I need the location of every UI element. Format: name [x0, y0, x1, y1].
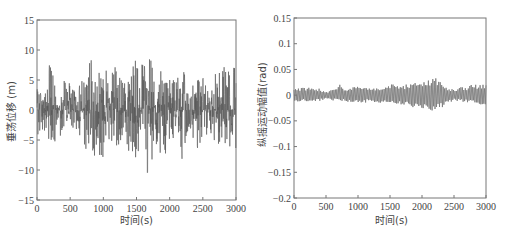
- x-tick-label: 1000: [93, 203, 113, 214]
- y-tick-label: 0.05: [274, 64, 292, 75]
- y-tick-label: 0.1: [279, 38, 292, 49]
- pitch-amplitude-chart: 0500100015002000250030000.150.10.050−0.0…: [253, 0, 506, 241]
- y-tick-label: −10: [18, 165, 34, 176]
- x-tick-label: 1500: [380, 201, 400, 212]
- y-axis-title: 纵摇运动幅值(rad): [254, 55, 269, 155]
- plot-frame: [294, 18, 486, 198]
- y-axis-title: 垂荡位移 (m): [3, 77, 18, 147]
- y-tick-label: −0.05: [268, 115, 291, 126]
- y-tick-label: 10: [24, 45, 34, 56]
- x-axis-title: 时间(s): [120, 212, 153, 227]
- pitch-plot-area: 0500100015002000250030000.150.10.050−0.0…: [253, 0, 506, 241]
- y-tick-label: 5: [29, 75, 34, 86]
- y-tick-label: −0.2: [273, 193, 291, 204]
- y-tick-label: 0: [29, 105, 34, 116]
- x-tick-label: 2500: [444, 201, 464, 212]
- heave-plot-area: 050010001500200025003000151050−5−10−15: [0, 0, 253, 241]
- data-series-line: [37, 59, 236, 172]
- heave-displacement-chart: 050010001500200025003000151050−5−10−15 时…: [0, 0, 253, 241]
- y-tick-label: −0.15: [268, 167, 291, 178]
- x-tick-label: 2500: [193, 203, 213, 214]
- y-tick-label: 0: [286, 90, 291, 101]
- x-tick-label: 0: [35, 203, 40, 214]
- x-tick-label: 2000: [160, 203, 180, 214]
- y-tick-label: −0.1: [273, 141, 291, 152]
- x-axis-title: 时间(s): [375, 212, 408, 227]
- x-tick-label: 3000: [476, 201, 496, 212]
- y-tick-label: −15: [18, 195, 34, 206]
- x-tick-label: 3000: [226, 203, 246, 214]
- x-tick-label: 1000: [348, 201, 368, 212]
- x-tick-label: 500: [63, 203, 78, 214]
- y-tick-label: 15: [24, 15, 34, 26]
- x-tick-label: 0: [292, 201, 297, 212]
- y-tick-label: 0.15: [274, 13, 292, 24]
- data-series-line: [294, 78, 486, 110]
- y-tick-label: −5: [23, 135, 34, 146]
- x-tick-label: 500: [319, 201, 334, 212]
- x-tick-label: 2000: [412, 201, 432, 212]
